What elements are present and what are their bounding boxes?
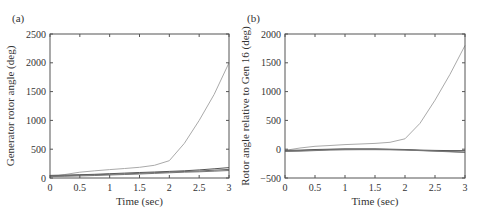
x-axis-label: Time (sec) [116, 195, 163, 208]
x-tick-label: 0.5 [74, 182, 87, 193]
x-tick-label: 1.5 [369, 182, 382, 193]
chart-b-svg: (b)00.511.522.53−5000500100015002000Time… [240, 0, 480, 218]
x-tick-label: 0 [48, 182, 53, 193]
x-axis-label: Time (sec) [352, 195, 399, 208]
x-tick-label: 2 [167, 182, 172, 193]
x-tick-label: 3 [227, 182, 232, 193]
series-line [285, 46, 465, 151]
y-tick-label: 500 [266, 115, 281, 126]
chart-panel-a: (a)00.511.522.5305001000150020002500Time… [0, 0, 240, 218]
y-tick-label: 1000 [26, 115, 46, 126]
x-tick-label: 0 [283, 182, 288, 193]
chart-a-svg: (a)00.511.522.5305001000150020002500Time… [0, 0, 240, 218]
x-tick-label: 1 [107, 182, 112, 193]
y-tick-label: 2000 [261, 29, 281, 40]
y-tick-label: 500 [31, 144, 46, 155]
y-tick-label: 2500 [26, 29, 46, 40]
y-tick-label: 1000 [261, 86, 281, 97]
x-tick-label: 2.5 [193, 182, 206, 193]
panel-label: (b) [247, 12, 260, 25]
y-axis-label: Generator rotor angle (deg) [4, 45, 17, 166]
plot-area [50, 34, 229, 178]
y-axis-label: Rotor angle relative to Gen 16 (deg) [240, 26, 252, 186]
x-tick-label: 2.5 [429, 182, 442, 193]
x-tick-label: 1 [343, 182, 348, 193]
y-tick-label: −500 [260, 173, 281, 184]
y-tick-label: 0 [41, 173, 46, 184]
x-tick-label: 3 [463, 182, 468, 193]
chart-panel-b: (b)00.511.522.53−5000500100015002000Time… [240, 0, 480, 218]
panel-label: (a) [12, 12, 25, 25]
series-line [50, 63, 229, 177]
x-tick-label: 0.5 [309, 182, 322, 193]
y-tick-label: 1500 [26, 86, 46, 97]
x-tick-label: 1.5 [133, 182, 146, 193]
y-tick-label: 1500 [261, 57, 281, 68]
y-tick-label: 0 [276, 144, 281, 155]
x-tick-label: 2 [403, 182, 408, 193]
plot-area [285, 34, 465, 178]
y-tick-label: 2000 [26, 57, 46, 68]
